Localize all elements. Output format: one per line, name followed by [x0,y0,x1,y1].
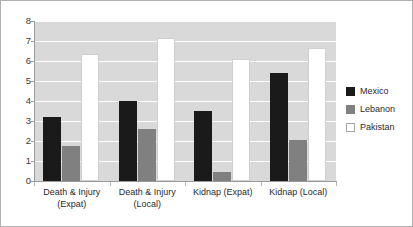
legend-label: Mexico [360,87,389,96]
legend-label: Lebanon [360,105,395,114]
y-axis-tick-label: 2 [5,136,31,146]
bar-lebanon-2 [138,129,156,181]
x-axis-category-label: Kidnap (Local) [261,186,337,198]
x-axis-category-label: Death & Injury (Local) [110,186,186,210]
bar-mexico-2 [119,101,137,181]
y-axis-tick-label: 8 [5,16,31,26]
chart-legend: MexicoLebanonPakistan [346,82,412,136]
legend-item-lebanon[interactable]: Lebanon [346,100,412,118]
x-axis-category-tick [110,182,111,186]
bar-chart-figure: 012345678 Death & Injury (Expat)Death & … [0,0,413,227]
y-axis-tick-mark [31,161,34,162]
x-axis-category-tick [336,182,337,186]
legend-item-mexico[interactable]: Mexico [346,82,412,100]
x-axis-category-tick [185,182,186,186]
legend-label: Pakistan [360,123,395,132]
bar-mexico-3 [194,111,212,181]
y-axis-tick-label: 7 [5,36,31,46]
legend-swatch-icon [346,87,355,96]
x-axis-category-tick [261,182,262,186]
y-axis-tick-label: 4 [5,96,31,106]
x-axis-category-label: Death & Injury (Expat) [34,186,110,210]
bar-lebanon-3 [213,172,231,181]
bar-group [261,21,337,181]
bar-group [110,21,186,181]
legend-swatch-icon [346,123,355,132]
y-axis-tick-mark [31,121,34,122]
y-axis-line [34,21,35,182]
bar-lebanon-4 [289,140,307,181]
plot-area [34,21,336,181]
y-axis-tick-mark [31,141,34,142]
y-axis-tick-mark [31,101,34,102]
bar-mexico-4 [270,73,288,181]
y-axis-tick-mark [31,61,34,62]
y-axis-tick-mark [31,81,34,82]
bar-pakistan-1 [81,54,99,181]
bar-group [185,21,261,181]
y-axis-tick-label: 0 [5,176,31,186]
x-axis-category-label: Kidnap (Expat) [185,186,261,198]
y-axis-tick-labels: 012345678 [1,1,31,227]
y-axis-tick-mark [31,21,34,22]
y-axis-tick-label: 1 [5,156,31,166]
bar-pakistan-4 [308,48,326,181]
bar-group [34,21,110,181]
bar-pakistan-3 [232,59,250,181]
y-axis-tick-label: 3 [5,116,31,126]
x-axis-category-tick [34,182,35,186]
bar-lebanon-1 [62,146,80,181]
legend-item-pakistan[interactable]: Pakistan [346,118,412,136]
legend-swatch-icon [346,105,355,114]
y-axis-tick-label: 6 [5,56,31,66]
y-axis-tick-label: 5 [5,76,31,86]
bar-mexico-1 [43,117,61,181]
y-axis-tick-mark [31,41,34,42]
bar-pakistan-2 [157,38,175,181]
